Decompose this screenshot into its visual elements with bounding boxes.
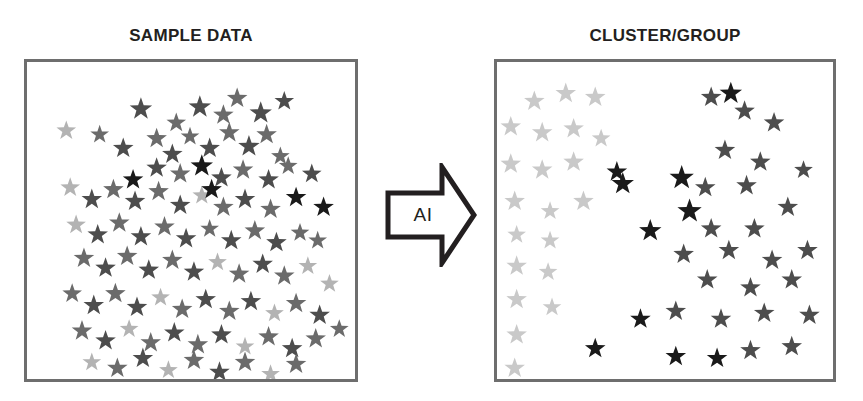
star-icon [778,196,799,216]
star-icon [585,87,606,107]
star-icon [213,196,234,216]
star-icon [541,231,560,249]
star-icon [764,112,785,132]
star-icon [241,291,262,311]
star-icon [131,226,152,246]
star-icon [260,198,281,218]
star-icon [221,230,242,250]
star-icon [252,253,273,273]
star-icon [504,191,525,211]
star-icon [95,330,116,350]
star-icon [170,194,191,214]
star-icon [320,274,339,292]
star-icon [125,191,146,211]
star-icon [585,338,606,358]
star-icon [750,151,771,171]
star-icon [148,181,169,201]
star-icon [734,100,755,120]
star-icon [146,157,167,177]
star-icon [74,247,95,267]
star-icon [666,300,687,320]
star-icon [261,364,280,379]
star-icon [209,361,230,379]
star-icon [105,283,126,303]
star-icon [701,87,722,107]
star-icon [162,143,183,163]
star-icon [56,120,76,139]
star-icon [139,259,160,279]
star-icon [117,246,138,266]
star-icon [573,191,594,211]
star-icon [200,219,219,237]
star-icon [309,304,330,324]
star-icon [211,167,232,187]
star-icon [113,138,134,158]
star-icon [107,357,128,377]
star-icon [258,169,279,189]
star-icon [639,219,661,240]
star-icon [208,252,227,270]
star-icon [181,127,200,145]
star-icon [82,189,103,209]
star-icon [191,154,213,175]
star-icon [172,299,193,319]
star-icon [781,269,802,289]
star-icon [504,357,525,377]
star-icon [701,218,722,238]
sample-data-star-layer [27,62,355,379]
star-icon [313,196,334,216]
star-icon [299,256,318,274]
star-icon [227,88,248,108]
star-icon [500,153,521,173]
star-icon [524,90,545,110]
star-icon [563,151,584,171]
star-icon [308,231,327,249]
star-icon [539,262,558,280]
star-icon [305,328,326,348]
star-icon [707,348,728,368]
sample-data-plot-box [24,59,358,382]
star-icon [740,340,761,360]
star-icon [286,353,307,373]
star-icon [189,95,211,116]
star-icon [330,319,349,337]
page-title-cluster-group: CLUSTER/GROUP [494,26,836,46]
star-icon [532,159,553,179]
star-icon [159,360,178,378]
star-icon [233,159,254,179]
star-icon [711,308,732,328]
star-icon [794,160,813,178]
star-icon [282,338,303,358]
arrow-label: AI [384,163,462,267]
star-icon [719,240,740,260]
star-icon [797,240,818,260]
page-title-sample-data: SAMPLE DATA [24,26,358,46]
star-icon [184,261,205,281]
star-icon [740,277,761,297]
star-icon [60,177,80,196]
star-icon [720,82,742,103]
star-icon [500,116,521,136]
star-icon [274,91,294,110]
star-icon [302,164,322,183]
star-icon [673,244,694,264]
star-icon [170,163,191,183]
star-icon [162,249,183,269]
star-icon [151,288,170,306]
star-icon [781,336,802,356]
star-icon [592,129,611,147]
star-icon [199,138,220,158]
star-icon [754,302,775,322]
star-icon [219,122,240,142]
star-icon [286,293,307,313]
star-icon [164,322,185,342]
star-icon [184,350,205,370]
star-icon [95,257,116,277]
star-icon [532,122,553,142]
star-icon [543,298,562,316]
star-icon [140,332,161,352]
star-icon [630,308,651,328]
star-icon [736,175,757,195]
star-icon [266,232,287,252]
diagram-canvas: SAMPLE DATA CLUSTER/GROUP AI [0,0,863,401]
